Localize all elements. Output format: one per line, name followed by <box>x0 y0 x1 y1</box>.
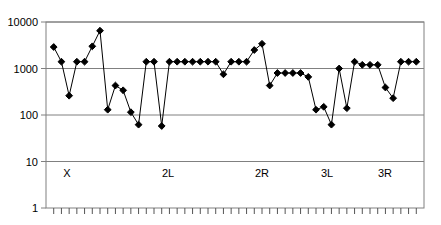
category-label: 3L <box>321 167 333 179</box>
y-tick-label: 1000 <box>14 63 38 75</box>
category-label: X <box>63 167 71 179</box>
category-label: 2L <box>162 167 174 179</box>
y-tick-label: 10 <box>26 156 38 168</box>
category-label: 3R <box>378 167 392 179</box>
chart-background <box>0 0 441 225</box>
y-tick-label: 100 <box>20 109 38 121</box>
category-label: 2R <box>255 167 269 179</box>
chart-container: 110100100010000 X2L2R3L3R <box>0 0 441 225</box>
log-line-chart: 110100100010000 X2L2R3L3R <box>0 0 441 225</box>
y-tick-label: 1 <box>32 202 38 214</box>
y-tick-label: 10000 <box>7 16 38 28</box>
